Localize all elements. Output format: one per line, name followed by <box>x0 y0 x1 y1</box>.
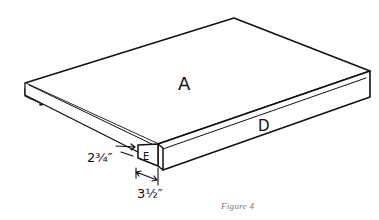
label-a: A <box>178 73 191 94</box>
figure-caption: Figure 4 <box>221 201 254 211</box>
top-panel-a <box>25 18 370 144</box>
shelf-diagram: E A D 2¾″ 3½″ <box>0 0 379 220</box>
label-e: E <box>143 151 149 162</box>
label-d: D <box>258 117 270 135</box>
height-leader <box>121 152 133 156</box>
width-arrow <box>136 171 157 181</box>
width-dimension-label: 3½″ <box>137 186 163 201</box>
height-dimension-label: 2¾″ <box>87 150 113 165</box>
